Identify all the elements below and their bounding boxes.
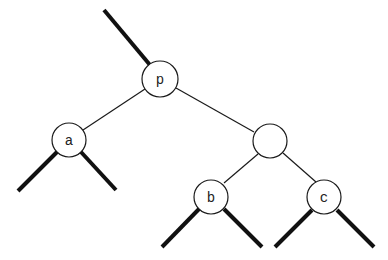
edge-q-c <box>283 153 316 182</box>
edge-p-a <box>83 89 145 130</box>
tree-diagram: p a b c <box>0 0 388 260</box>
node-label-p: p <box>156 72 164 88</box>
edge-q-b <box>224 154 258 183</box>
node-unlabeled <box>253 124 287 158</box>
stub-c-right <box>337 210 374 247</box>
node-label-b: b <box>207 190 215 206</box>
stub-p-parent <box>104 10 150 65</box>
stub-b-right <box>224 209 262 247</box>
stub-a-left <box>18 152 57 191</box>
stub-c-left <box>275 210 312 247</box>
node-label-c: c <box>320 190 328 206</box>
node-label-a: a <box>65 133 73 149</box>
stub-a-right <box>81 152 116 190</box>
edge-p-q <box>176 88 254 132</box>
stub-b-left <box>162 209 199 247</box>
